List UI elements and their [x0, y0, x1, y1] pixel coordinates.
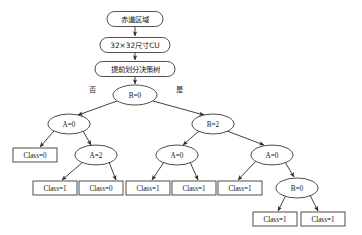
- edge-d2-d5: [227, 131, 264, 145]
- leaf-node-class1-f[interactable]: Class=1: [253, 212, 297, 226]
- decision-node-label: A=0: [171, 152, 184, 160]
- edge-d3-L2: [62, 162, 83, 180]
- leaf-node-label: Class=1: [228, 185, 252, 193]
- decision-node-label: A=2: [90, 152, 103, 160]
- decision-tree-diagram: 赤道区域 32×32尺寸CU 提前划分决策树 否 是 B=0 A=0 B=2 A…: [0, 0, 362, 235]
- edge-d5-L6: [238, 160, 257, 180]
- decision-node-label: A=0: [266, 152, 279, 160]
- edge-d0-d1: [78, 101, 117, 115]
- decision-node-label: B=2: [207, 121, 220, 129]
- flow-node-equatorial-region[interactable]: 赤道区域: [107, 12, 163, 27]
- diagram-canvas: 赤道区域 32×32尺寸CU 提前划分决策树 否 是 B=0 A=0 B=2 A…: [0, 0, 362, 235]
- leaf-node-label: Class=0: [23, 152, 47, 160]
- decision-node-label: B=0: [291, 185, 304, 193]
- edge-d4-L5: [190, 162, 198, 180]
- edge-d4-L4: [152, 162, 164, 180]
- edge-d0-d2: [153, 101, 204, 115]
- edge-d1-L1: [40, 131, 54, 147]
- edge-label-yes: 是: [176, 85, 183, 94]
- leaf-node-label: Class=1: [43, 185, 67, 193]
- flow-node-cu-size[interactable]: 32×32尺寸CU: [100, 38, 170, 53]
- decision-node-left-a0[interactable]: A=0: [48, 114, 90, 134]
- leaf-node-label: Class=0: [89, 185, 113, 193]
- leaf-node-class0-left[interactable]: Class=0: [13, 148, 57, 162]
- edge-d1-d3: [83, 131, 91, 145]
- leaf-node-class1-d[interactable]: Class=1: [172, 181, 216, 195]
- decision-node-deep-b0[interactable]: B=0: [276, 178, 318, 198]
- edge-d6-L7: [278, 195, 286, 211]
- decision-node-label: A=0: [63, 121, 76, 129]
- edge-d5-d6: [285, 162, 294, 177]
- leaf-node-label: Class=1: [182, 185, 206, 193]
- edge-d2-d4: [183, 131, 199, 145]
- decision-node-far-right-a0[interactable]: A=0: [251, 145, 293, 165]
- decision-node-mid-a0[interactable]: A=0: [156, 145, 198, 165]
- edge-d3-L3: [109, 162, 116, 180]
- leaf-node-class1-a[interactable]: Class=1: [33, 181, 77, 195]
- leaf-node-label: Class=1: [311, 216, 335, 224]
- flow-node-label: 赤道区域: [121, 15, 150, 24]
- decision-node-root-b0[interactable]: B=0: [113, 85, 157, 105]
- decision-node-right-b2[interactable]: B=2: [192, 114, 234, 134]
- flow-node-early-split-decision-tree[interactable]: 提前划分决策树: [95, 62, 175, 77]
- leaf-node-label: Class=1: [136, 185, 160, 193]
- decision-node-label: B=0: [129, 92, 142, 100]
- leaf-node-class1-c[interactable]: Class=1: [126, 181, 170, 195]
- leaf-node-class1-g[interactable]: Class=1: [301, 212, 345, 226]
- edge-d6-L8: [310, 195, 318, 211]
- flow-node-label: 提前划分决策树: [111, 65, 161, 74]
- decision-node-a2[interactable]: A=2: [75, 145, 117, 165]
- flow-node-label: 32×32尺寸CU: [110, 41, 160, 50]
- edge-label-no: 否: [89, 85, 96, 94]
- leaf-node-label: Class=1: [263, 216, 287, 224]
- leaf-node-class0-b[interactable]: Class=0: [79, 181, 123, 195]
- leaf-node-class1-e[interactable]: Class=1: [218, 181, 262, 195]
